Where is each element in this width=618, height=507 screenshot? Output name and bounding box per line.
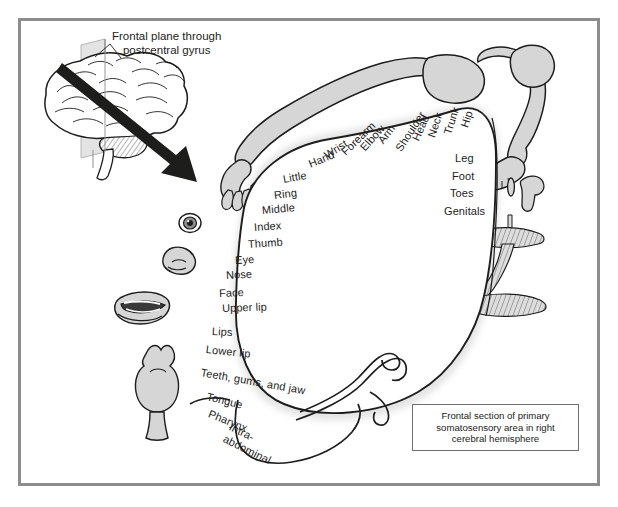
label-thumb: Thumb — [248, 236, 284, 250]
label-nose: Nose — [226, 268, 253, 281]
tongue-pharynx-figure — [135, 346, 178, 441]
genitals-figure — [508, 176, 544, 211]
caption-line-1: Frontal section of primary — [441, 410, 549, 421]
nose-figure — [163, 247, 196, 274]
label-eye: Eye — [235, 253, 255, 266]
caption-line-2: somatosensory area in right — [436, 422, 554, 433]
label-foot: Foot — [452, 170, 474, 182]
frontal-plane-callout: Frontal plane through postcentral gyrus — [112, 30, 221, 57]
figure-page: Frontal plane through postcentral gyrus … — [0, 0, 618, 507]
label-genitals: Genitals — [444, 205, 485, 217]
label-lips: Lips — [212, 325, 233, 338]
caption-line-3: cerebral hemisphere — [452, 433, 539, 444]
caption-box: Frontal section of primary somatosensory… — [412, 404, 579, 451]
label-face: Face — [219, 286, 244, 299]
lips-mouth-figure — [115, 292, 170, 324]
brain-inset-group — [45, 39, 197, 182]
label-index: Index — [254, 219, 282, 233]
callout-line-2: postcentral gyrus — [123, 44, 211, 56]
label-toes: Toes — [450, 187, 474, 199]
caption-text: Frontal section of primary somatosensory… — [436, 410, 554, 445]
eye-figure — [179, 214, 201, 233]
callout-line-1: Frontal plane through — [112, 30, 221, 42]
label-upper-lip: Upper lip — [222, 300, 267, 314]
label-leg: Leg — [455, 152, 474, 164]
